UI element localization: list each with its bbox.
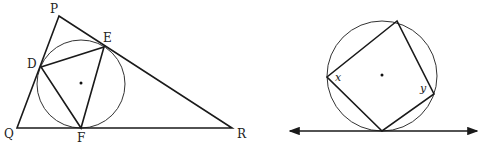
- circle-center-dot: [381, 74, 384, 77]
- label-e: E: [103, 31, 112, 45]
- circle-quadrilateral-figure: x y: [290, 21, 477, 131]
- label-f: F: [77, 131, 85, 145]
- angle-label-x: x: [335, 71, 342, 84]
- incircle-center-dot: [80, 82, 83, 85]
- diagram-canvas: P E D Q F R x y: [0, 0, 482, 146]
- label-d: D: [27, 57, 37, 71]
- triangle-pqr: [17, 16, 232, 128]
- label-r: R: [237, 127, 247, 141]
- label-q: Q: [4, 127, 14, 141]
- label-p: P: [50, 2, 58, 16]
- triangle-figure: P E D Q F R: [4, 2, 247, 145]
- angle-label-y: y: [419, 82, 427, 95]
